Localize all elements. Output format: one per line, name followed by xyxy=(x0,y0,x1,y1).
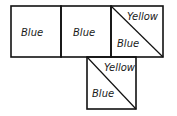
cube-net-diagram: Blue Blue Yellow Blue Yellow Blue xyxy=(0,0,177,116)
face-4-lower-label: Blue xyxy=(92,88,114,99)
face-1-label: Blue xyxy=(21,27,43,38)
face-4-upper-label: Yellow xyxy=(104,62,136,73)
face-3-lower-label: Blue xyxy=(117,38,139,49)
face-2-label: Blue xyxy=(73,27,95,38)
face-3-upper-label: Yellow xyxy=(127,11,159,22)
